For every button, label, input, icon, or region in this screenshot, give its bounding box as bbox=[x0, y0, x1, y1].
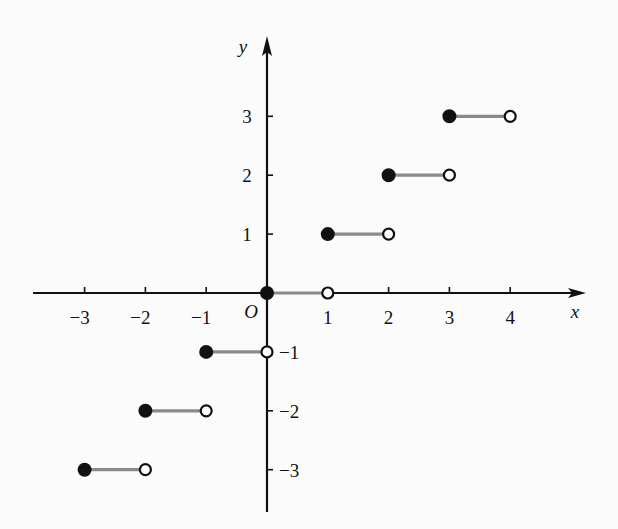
y-tick-label: 2 bbox=[242, 165, 252, 186]
y-axis-label: y bbox=[237, 36, 248, 57]
open-dot bbox=[201, 405, 212, 416]
origin-label: O bbox=[244, 301, 258, 322]
closed-dot bbox=[139, 405, 151, 417]
closed-dot bbox=[200, 346, 212, 358]
open-dot bbox=[444, 170, 455, 181]
x-tick-label: −2 bbox=[130, 307, 150, 328]
y-tick-label: 1 bbox=[242, 224, 252, 245]
x-tick-label: 4 bbox=[505, 307, 515, 328]
open-dot bbox=[383, 229, 394, 240]
closed-dot bbox=[383, 169, 395, 181]
closed-dot bbox=[443, 110, 455, 122]
y-tick-label: −3 bbox=[279, 460, 299, 481]
x-tick-label: 3 bbox=[445, 307, 455, 328]
open-dot bbox=[262, 346, 273, 357]
open-dot bbox=[322, 288, 333, 299]
closed-dot bbox=[79, 464, 91, 476]
y-tick-label: 3 bbox=[242, 106, 252, 127]
x-tick-label: −1 bbox=[191, 307, 211, 328]
closed-dot bbox=[322, 228, 334, 240]
y-tick-label: −2 bbox=[279, 401, 299, 422]
x-tick-label: −3 bbox=[69, 307, 89, 328]
x-tick-label: 1 bbox=[323, 307, 333, 328]
x-axis-label: x bbox=[570, 301, 580, 322]
open-dot bbox=[140, 464, 151, 475]
step-function-chart: −3−2−11234321−1−2−3xyO bbox=[0, 0, 618, 529]
open-dot bbox=[505, 111, 516, 122]
chart-canvas: −3−2−11234321−1−2−3xyO bbox=[0, 0, 618, 529]
x-tick-label: 2 bbox=[384, 307, 394, 328]
y-tick-label: −1 bbox=[279, 342, 299, 363]
closed-dot bbox=[261, 287, 273, 299]
